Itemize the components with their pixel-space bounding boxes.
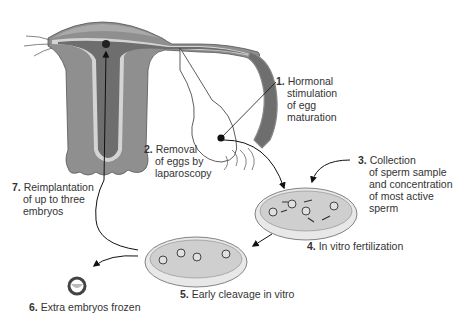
step-4-label: 4. In vitro fertilization (307, 240, 403, 252)
petri-dish-cleavage (145, 237, 247, 287)
petri-dish-fertilization (255, 188, 357, 240)
step-7-label: 7. Reimplantation of up to three embryos (12, 181, 94, 217)
frozen-embryo (69, 278, 85, 294)
step-5-label: 5. Early cleavage in vitro (180, 288, 294, 300)
step-2-label: 2. Removal of eggs by laparoscopy (144, 143, 212, 179)
step-3-label: 3. Collection of sperm sample and concen… (358, 154, 452, 214)
step-6-label: 6. Extra embryos frozen (29, 301, 140, 313)
step-1-label: 1. Hormonal stimulation of egg maturatio… (276, 75, 337, 123)
